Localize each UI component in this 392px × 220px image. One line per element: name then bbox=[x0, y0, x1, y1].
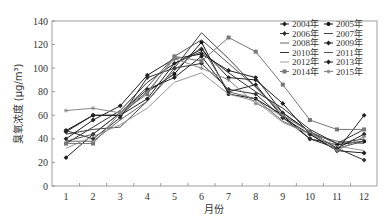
legend-item: 2014年 bbox=[280, 66, 319, 77]
legend-item: 2006年 bbox=[280, 28, 319, 39]
legend-label: 2005年 bbox=[336, 18, 363, 29]
x-tick-label: 8 bbox=[253, 191, 258, 202]
y-tick-label: 120 bbox=[33, 39, 48, 50]
legend-label: 2015年 bbox=[336, 66, 363, 77]
x-tick-label: 10 bbox=[305, 191, 315, 202]
y-tick-label: 40 bbox=[38, 133, 48, 144]
y-tick-label: 80 bbox=[38, 86, 48, 97]
x-tick-label: 11 bbox=[332, 191, 342, 202]
x-axis-title: 月份 bbox=[204, 204, 224, 215]
series-2010年 bbox=[66, 52, 364, 144]
legend-label: 2007年 bbox=[336, 28, 363, 39]
series-layer bbox=[64, 33, 367, 163]
y-tick-label: 140 bbox=[33, 16, 48, 27]
legend-label: 2004年 bbox=[292, 18, 319, 29]
legend-label: 2014年 bbox=[292, 66, 319, 77]
legend-item: 2009年 bbox=[324, 37, 363, 48]
x-tick-label: 3 bbox=[118, 191, 123, 202]
legend-label: 2010年 bbox=[292, 47, 319, 58]
legend: 2004年2005年2006年2007年2008年2009年2010年2011年… bbox=[280, 18, 363, 77]
legend-item: 2011年 bbox=[324, 47, 363, 58]
legend-item: 2005年 bbox=[324, 18, 363, 29]
legend-item: 2007年 bbox=[324, 28, 363, 39]
legend-item: 2012年 bbox=[280, 56, 319, 67]
legend-item: 2015年 bbox=[324, 66, 363, 77]
y-tick-label: 60 bbox=[38, 110, 48, 121]
x-tick-label: 6 bbox=[199, 191, 204, 202]
y-tick-label: 0 bbox=[43, 181, 48, 192]
y-tick-label: 100 bbox=[33, 63, 48, 74]
x-tick-label: 5 bbox=[172, 191, 177, 202]
series-2011年 bbox=[66, 40, 364, 148]
x-tick-label: 4 bbox=[145, 191, 150, 202]
x-tick-label: 2 bbox=[91, 191, 96, 202]
legend-item: 2013年 bbox=[324, 56, 363, 67]
series-2009年 bbox=[64, 52, 367, 151]
legend-item: 2008年 bbox=[280, 37, 319, 48]
legend-label: 2009年 bbox=[336, 37, 363, 48]
legend-label: 2008年 bbox=[292, 37, 319, 48]
legend-label: 2013年 bbox=[336, 56, 363, 67]
legend-item: 2010年 bbox=[280, 47, 319, 58]
y-tick-label: 20 bbox=[38, 157, 48, 168]
x-tick-label: 1 bbox=[64, 191, 69, 202]
x-tick-label: 12 bbox=[359, 191, 369, 202]
series-2005年 bbox=[64, 40, 366, 147]
legend-label: 2006年 bbox=[292, 28, 319, 39]
ozone-line-chart: 020406080100120140 123456789101112 月份 臭氧… bbox=[0, 0, 392, 220]
x-tick-label: 9 bbox=[280, 191, 285, 202]
y-axis-title: 臭氧浓度 (μg/m³) bbox=[12, 63, 24, 144]
x-tick-label: 7 bbox=[226, 191, 231, 202]
legend-item: 2004年 bbox=[280, 18, 319, 29]
legend-label: 2012年 bbox=[292, 56, 319, 67]
legend-label: 2011年 bbox=[336, 47, 363, 58]
